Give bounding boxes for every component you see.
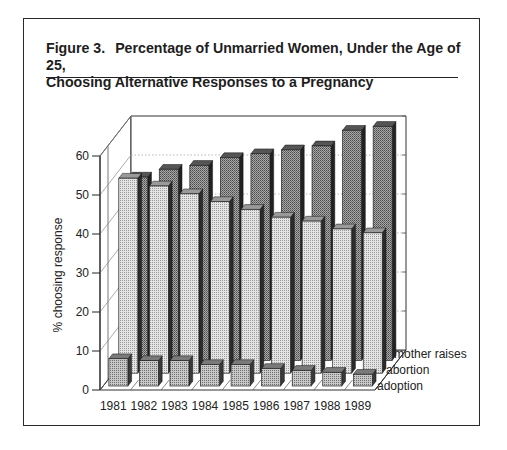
bar-adoption-1987 [292,366,315,386]
y-tick-label: 10 [76,344,90,358]
bar-adoption-1981 [109,354,132,386]
legend-item-abortion: abortion [386,363,429,377]
bar-adoption-1983 [170,356,193,386]
y-tick-label: 0 [82,383,89,397]
bar-abortion-1986 [272,212,295,373]
x-tick-label: 1984 [192,399,219,413]
bar-abortion-1982 [149,181,172,373]
bar-abortion-1984 [210,197,233,373]
bar-adoption-1988 [323,368,346,386]
x-tick-label: 1982 [130,399,157,413]
bar-adoption-1985 [231,360,254,386]
x-axis-labels: 198119821983198419851986198719881989 [100,399,371,413]
x-tick-label: 1985 [222,399,249,413]
bar-chart-3d: 0102030405060 19811982198319841985198619… [0,0,507,450]
x-tick-label: 1981 [100,399,127,413]
y-tick-label: 30 [76,266,90,280]
bar-abortion-1981 [119,173,142,373]
y-tick-label: 20 [76,305,90,319]
x-tick-label: 1989 [344,399,371,413]
bar-abortion-1985 [241,205,264,374]
x-tick-label: 1988 [314,399,341,413]
bar-adoption-1984 [201,360,224,386]
bar-adoption-1986 [262,364,285,386]
bar-abortion-1988 [333,224,356,373]
y-tick-label: 40 [76,227,90,241]
legend-item-mother-raises: mother raises [394,347,467,361]
bar-abortion-1987 [302,216,325,373]
bar-abortion-1983 [180,189,203,373]
bar-abortion-1989 [363,228,386,373]
legend-item-adoption: adoption [377,379,423,393]
bar-adoption-1989 [353,370,376,387]
x-tick-label: 1986 [253,399,280,413]
y-tick-label: 60 [76,149,90,163]
x-tick-label: 1983 [161,399,188,413]
bar-adoption-1982 [139,356,162,386]
x-tick-label: 1987 [283,399,310,413]
y-tick-label: 50 [76,188,90,202]
y-axis-title: % choosing response [51,217,65,332]
